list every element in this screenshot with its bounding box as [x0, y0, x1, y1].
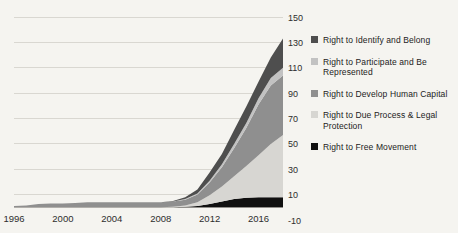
- legend-item: Right to Develop Human Capital: [311, 89, 453, 100]
- stacked-area-chart-screenshot: 1996200020042008201220161501301109070503…: [0, 0, 458, 233]
- x-tick-label: 2000: [52, 213, 73, 224]
- x-tick-label: 2008: [150, 213, 171, 224]
- legend-swatch-icon: [311, 143, 318, 150]
- x-tick-label: 2016: [248, 213, 269, 224]
- legend-item: Right to Identify and Belong: [311, 35, 453, 46]
- y-tick-label: 130: [288, 38, 303, 48]
- legend-item: Right to Due Process & Legal Protection: [311, 110, 453, 131]
- y-tick-label: 70: [288, 114, 298, 124]
- x-tick-label: 2012: [199, 213, 220, 224]
- legend-item: Right to Participate and Be Represented: [311, 57, 453, 78]
- legend-label: Right to Identify and Belong: [323, 35, 449, 46]
- y-tick-label: 10: [288, 190, 298, 200]
- legend-label: Right to Free Movement: [323, 142, 449, 153]
- y-tick-label: 50: [288, 139, 298, 149]
- stacked-area-chart: 1996200020042008201220161501301109070503…: [0, 0, 312, 233]
- legend-swatch-icon: [311, 58, 318, 65]
- legend-label: Right to Due Process & Legal Protection: [323, 110, 449, 131]
- y-tick-label: 150: [288, 13, 303, 23]
- legend-item: Right to Free Movement: [311, 142, 453, 153]
- x-tick-label: 2004: [101, 213, 122, 224]
- y-tick-label: -10: [288, 216, 301, 226]
- legend: Right to Identify and Belong Right to Pa…: [311, 35, 453, 164]
- legend-swatch-icon: [311, 90, 318, 97]
- legend-label: Right to Develop Human Capital: [323, 89, 449, 100]
- y-tick-label: 90: [288, 89, 298, 99]
- legend-swatch-icon: [311, 111, 318, 118]
- y-tick-label: 30: [288, 165, 298, 175]
- x-tick-label: 1996: [3, 213, 24, 224]
- y-tick-label: 110: [288, 63, 302, 73]
- legend-label: Right to Participate and Be Represented: [323, 57, 449, 78]
- legend-swatch-icon: [311, 36, 318, 43]
